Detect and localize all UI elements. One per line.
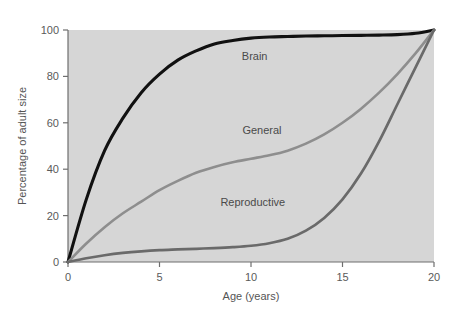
y-axis-title: Percentage of adult size xyxy=(16,87,28,205)
series-label-brain: Brain xyxy=(242,50,268,62)
x-tick-label: 10 xyxy=(245,271,257,283)
series-label-general: General xyxy=(242,124,281,136)
x-tick-label: 0 xyxy=(65,271,71,283)
x-axis-title: Age (years) xyxy=(223,290,280,302)
growth-curves-chart: 020406080100 05101520 BrainGeneralReprod… xyxy=(0,0,460,317)
y-tick-label: 60 xyxy=(47,117,59,129)
plot-area-background xyxy=(68,30,434,262)
y-tick-label: 80 xyxy=(47,70,59,82)
y-tick-label: 100 xyxy=(41,24,59,36)
x-tick-label: 15 xyxy=(336,271,348,283)
y-tick-label: 40 xyxy=(47,163,59,175)
x-tick-label: 20 xyxy=(428,271,440,283)
y-axis-ticks: 020406080100 xyxy=(41,24,68,268)
x-axis-ticks: 05101520 xyxy=(65,262,440,283)
x-tick-label: 5 xyxy=(156,271,162,283)
chart-figure: 020406080100 05101520 BrainGeneralReprod… xyxy=(0,0,460,317)
y-tick-label: 20 xyxy=(47,210,59,222)
y-tick-label: 0 xyxy=(53,256,59,268)
series-label-reproductive: Reproductive xyxy=(220,196,285,208)
